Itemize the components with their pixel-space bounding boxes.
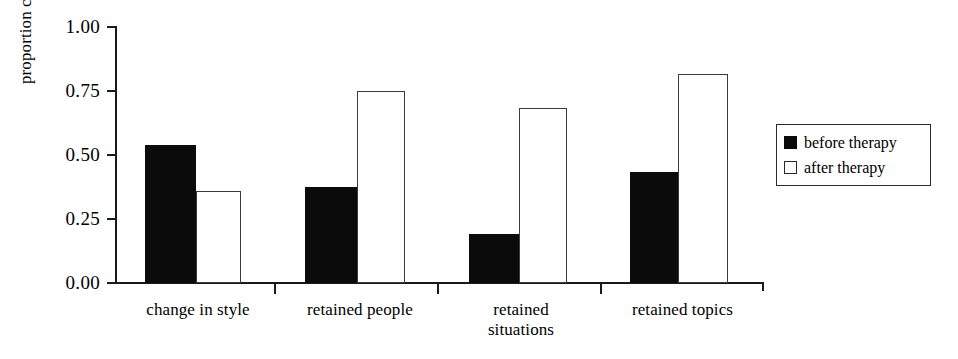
legend-swatch-filled-square-icon — [784, 136, 797, 149]
x-category-label-retained-people: retained people — [280, 300, 440, 320]
x-category-label-line: change in style — [118, 300, 278, 320]
y-tick-mark-0.25 — [107, 218, 116, 220]
bar-retained-situations-before-therapy — [469, 234, 519, 283]
x-category-label-line: retained people — [280, 300, 440, 320]
x-category-label-line: situations — [441, 320, 601, 340]
legend-swatch-open-square-icon — [784, 161, 797, 174]
bar-retained-topics-after-therapy — [678, 74, 728, 283]
y-axis-title: proportion change — [14, 0, 38, 84]
y-tick-label-0.75: 0.75 — [34, 81, 100, 100]
bar-retained-people-before-therapy — [305, 187, 357, 283]
x-tick-mark-3 — [600, 284, 602, 294]
bar-change-in-style-before-therapy — [145, 145, 196, 283]
plot-area — [116, 27, 763, 283]
x-category-label-retained-situations: retained situations — [441, 300, 601, 340]
y-tick-label-0.00: 0.00 — [34, 273, 100, 292]
bar-chart-figure: proportion change 1.00 0.75 0.50 0.25 0.… — [0, 0, 958, 359]
legend-label-after-therapy: after therapy — [804, 159, 885, 177]
legend-box: before therapy after therapy — [776, 124, 931, 186]
bar-change-in-style-after-therapy — [196, 191, 241, 283]
x-category-label-change-in-style: change in style — [118, 300, 278, 320]
legend-item-after-therapy: after therapy — [784, 155, 924, 180]
legend-label-before-therapy: before therapy — [804, 134, 897, 152]
y-tick-label-0.25: 0.25 — [34, 209, 100, 228]
y-tick-mark-0.50 — [107, 154, 116, 156]
x-category-label-line: retained topics — [600, 300, 765, 320]
y-tick-mark-0.00 — [107, 282, 116, 284]
y-tick-label-0.50: 0.50 — [34, 145, 100, 164]
legend-item-before-therapy: before therapy — [784, 130, 924, 155]
y-tick-label-1.00: 1.00 — [34, 17, 100, 36]
bar-retained-situations-after-therapy — [519, 108, 567, 283]
x-tick-mark-1 — [274, 284, 276, 294]
bar-retained-topics-before-therapy — [630, 172, 678, 283]
x-category-label-line: retained — [441, 300, 601, 320]
y-tick-mark-0.75 — [107, 90, 116, 92]
x-category-label-retained-topics: retained topics — [600, 300, 765, 320]
x-axis-end-tick — [762, 282, 764, 291]
y-tick-mark-1.00 — [107, 26, 116, 28]
bar-retained-people-after-therapy — [357, 91, 405, 283]
x-tick-mark-2 — [437, 284, 439, 294]
